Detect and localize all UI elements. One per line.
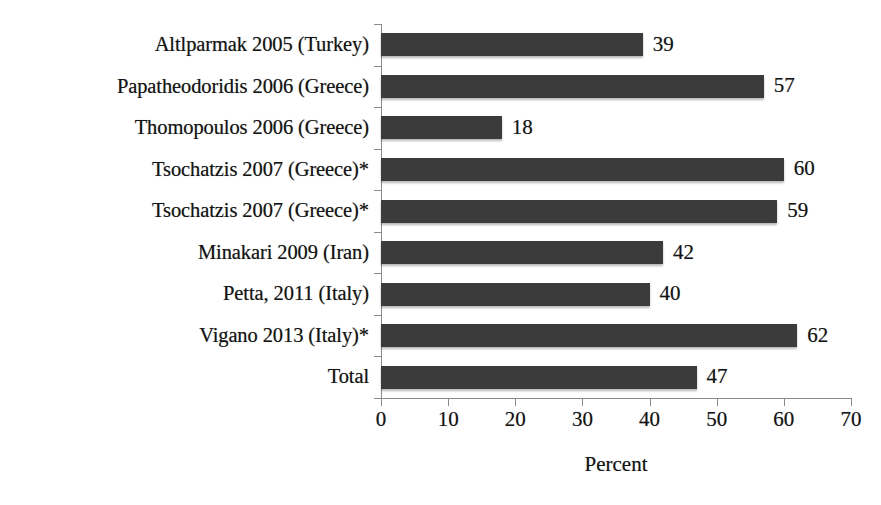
y-axis-tick — [374, 24, 381, 25]
y-axis-tick — [374, 356, 381, 357]
category-label-row: Vigano 2013 (Italy)* — [0, 315, 375, 357]
y-axis-tick — [374, 107, 381, 108]
bar — [381, 241, 663, 264]
y-axis-tick — [374, 232, 381, 233]
bar — [381, 33, 643, 56]
bar — [381, 116, 502, 139]
y-axis-tick — [374, 315, 381, 316]
x-axis-tick — [381, 398, 382, 406]
category-label: Thomopoulos 2006 (Greece) — [135, 117, 369, 139]
x-axis-tick-label: 70 — [841, 407, 862, 432]
bar — [381, 75, 764, 98]
bar-row: 39 — [381, 33, 851, 56]
bar-value-label: 47 — [707, 364, 728, 389]
bar-row: 62 — [381, 324, 851, 347]
y-axis-tick — [374, 149, 381, 150]
x-axis-tick-labels: 010203040506070 — [381, 407, 851, 437]
bar — [381, 283, 650, 306]
category-label: Total — [328, 366, 369, 388]
bar-value-label: 42 — [673, 240, 694, 265]
bar — [381, 200, 777, 223]
bar-value-label: 18 — [512, 115, 533, 140]
bar-value-label: 59 — [787, 198, 808, 223]
bar-value-label: 60 — [794, 156, 815, 181]
x-axis-tick — [582, 398, 583, 406]
bar-value-label: 40 — [660, 281, 681, 306]
category-label-row: Minakari 2009 (Iran) — [0, 232, 375, 274]
category-label: Papatheodoridis 2006 (Greece) — [117, 76, 369, 98]
x-axis-tick — [515, 398, 516, 406]
bar-row: 47 — [381, 366, 851, 389]
x-axis-tick — [650, 398, 651, 406]
x-axis-tick-label: 50 — [706, 407, 727, 432]
bar — [381, 158, 784, 181]
category-label-row: Tsochatzis 2007 (Greece)* — [0, 149, 375, 191]
category-axis: Altlparmak 2005 (Turkey)Papatheodoridis … — [0, 24, 375, 398]
category-label-row: Petta, 2011 (Italy) — [0, 273, 375, 315]
bar-row: 42 — [381, 241, 851, 264]
bar-row: 59 — [381, 200, 851, 223]
x-axis-tick-label: 20 — [505, 407, 526, 432]
category-label: Altlparmak 2005 (Turkey) — [155, 34, 369, 56]
bar-row: 60 — [381, 158, 851, 181]
x-axis-tick-label: 60 — [773, 407, 794, 432]
x-axis-tick-label: 30 — [572, 407, 593, 432]
x-axis-tick — [448, 398, 449, 406]
bar — [381, 366, 697, 389]
category-label: Minakari 2009 (Iran) — [198, 242, 369, 264]
bar-value-label: 39 — [653, 32, 674, 57]
x-axis-title: Percent — [381, 452, 851, 477]
y-axis-tick — [374, 398, 381, 399]
y-axis-tick — [374, 273, 381, 274]
category-label-row: Tsochatzis 2007 (Greece)* — [0, 190, 375, 232]
x-axis-tick — [784, 398, 785, 406]
category-label-row: Altlparmak 2005 (Turkey) — [0, 24, 375, 66]
x-axis-tick-label: 0 — [376, 407, 387, 432]
x-axis-tick-label: 40 — [639, 407, 660, 432]
bar-row: 40 — [381, 283, 851, 306]
bar — [381, 324, 797, 347]
x-axis-tick — [851, 398, 852, 406]
x-axis-tick — [717, 398, 718, 406]
x-axis-line — [381, 398, 851, 399]
bar-row: 57 — [381, 75, 851, 98]
bar-value-label: 57 — [774, 73, 795, 98]
category-label-row: Thomopoulos 2006 (Greece) — [0, 107, 375, 149]
category-label-row: Papatheodoridis 2006 (Greece) — [0, 66, 375, 108]
category-label: Petta, 2011 (Italy) — [223, 283, 369, 305]
bar-row: 18 — [381, 116, 851, 139]
y-axis-tick — [374, 190, 381, 191]
bar-value-label: 62 — [807, 323, 828, 348]
category-label: Vigano 2013 (Italy)* — [199, 325, 369, 347]
bar-chart: Altlparmak 2005 (Turkey)Papatheodoridis … — [0, 0, 881, 505]
category-label: Tsochatzis 2007 (Greece)* — [152, 159, 369, 181]
plot-area: 395718605942406247 — [381, 24, 851, 398]
y-axis-tick — [374, 66, 381, 67]
category-label: Tsochatzis 2007 (Greece)* — [152, 200, 369, 222]
x-axis-tick-label: 10 — [438, 407, 459, 432]
category-label-row: Total — [0, 356, 375, 398]
